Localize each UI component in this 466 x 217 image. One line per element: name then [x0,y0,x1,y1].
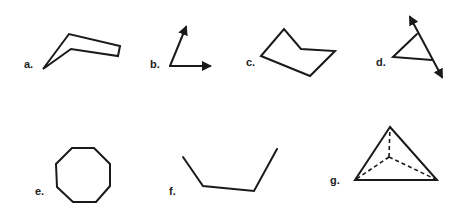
tetrahedron-outline [355,127,437,180]
concave-polygon [43,34,120,69]
figure-label: e. [35,185,44,197]
double-arrow-line-icon [410,17,442,77]
figure-label: b. [150,58,160,70]
hidden-edge [389,127,390,157]
octagon [56,148,110,202]
ray-up-icon [170,27,186,66]
hidden-edge [355,157,389,180]
concave-polygon [261,29,335,76]
figure-a: a. [24,34,120,70]
figure-label: g. [330,174,340,186]
figure-b: b. [150,27,210,70]
open-polyline [183,149,277,191]
hidden-edge [389,157,437,180]
figure-g: g. [330,127,437,186]
figure-e: e. [35,148,110,202]
figure-label: d. [376,56,386,68]
figure-label: a. [24,58,33,70]
figure-f: f. [169,149,277,197]
figure-label: c. [246,56,255,68]
figure-d: d. [376,17,442,77]
geometry-figures: a. b. c. d. e. f. g. [0,0,466,217]
figure-c: c. [246,29,335,76]
figure-label: f. [169,185,176,197]
